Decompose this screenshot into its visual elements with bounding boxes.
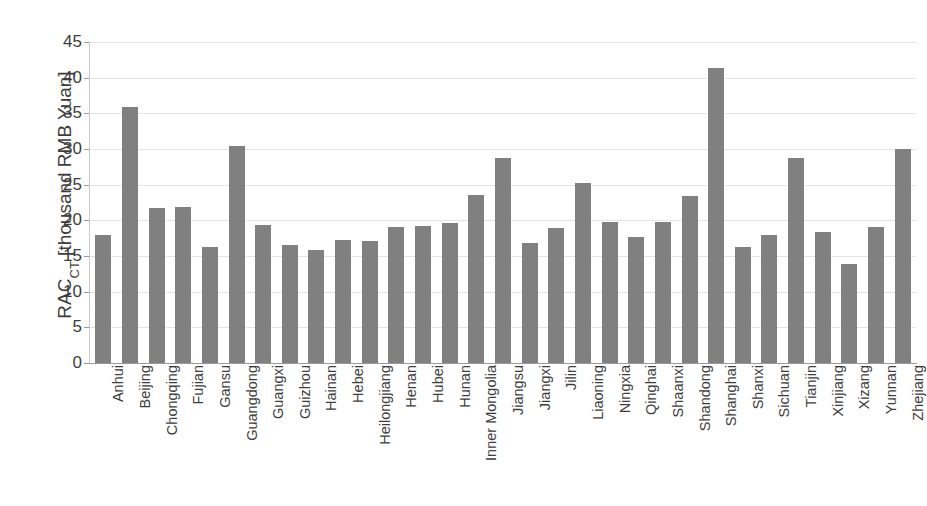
- bar: [895, 149, 911, 363]
- y-axis-tickmark: [84, 78, 89, 79]
- x-axis-tick-label: Xizang: [855, 365, 873, 505]
- x-axis-tick-label: Shanxi: [749, 365, 767, 505]
- y-axis-tickmark: [84, 42, 89, 43]
- x-axis-tick-label: Jilin: [562, 365, 580, 505]
- bar: [335, 240, 351, 363]
- x-axis-tick-label: Hebei: [349, 365, 367, 505]
- x-axis-tick-label: Ningxia: [616, 365, 634, 505]
- bar: [442, 223, 458, 363]
- y-axis-tick-label: 30: [48, 140, 82, 157]
- bar: [815, 232, 831, 363]
- y-axis-tick-label: 20: [48, 211, 82, 228]
- x-axis-tick-label: Fujian: [189, 365, 207, 505]
- x-axis-tick-label: Sichuan: [775, 365, 793, 505]
- bar: [788, 158, 804, 363]
- bar: [682, 196, 698, 363]
- y-axis-tick-label: 15: [48, 247, 82, 264]
- x-axis-tick-label: Heilongjiang: [376, 365, 394, 505]
- x-axis-tick-label: Liaoning: [589, 365, 607, 505]
- x-axis-tick-label: Zhejiang: [909, 365, 927, 505]
- bar: [628, 237, 644, 363]
- x-axis-tick-label: Tianjin: [802, 365, 820, 505]
- x-axis-tick-label: Jiangxi: [536, 365, 554, 505]
- bar: [548, 228, 564, 363]
- bar: [602, 222, 618, 363]
- y-axis-tickmark: [84, 149, 89, 150]
- x-axis-tick-label: Qinghai: [642, 365, 660, 505]
- y-axis-tickmark: [84, 292, 89, 293]
- y-axis-tick-label: 10: [48, 283, 82, 300]
- bar: [255, 225, 271, 363]
- y-axis-tickmark: [84, 220, 89, 221]
- bar: [575, 183, 591, 363]
- y-axis-tickmark: [84, 363, 89, 364]
- bar: [841, 264, 857, 363]
- bar: [229, 146, 245, 363]
- bar: [149, 208, 165, 364]
- x-axis-tick-label: Hainan: [322, 365, 340, 505]
- bar: [468, 195, 484, 363]
- x-axis-tick-label: Guangdong: [243, 365, 261, 505]
- x-axis-tick-label: Beijing: [136, 365, 154, 505]
- bar: [655, 222, 671, 363]
- x-axis-tick-label: Gansu: [216, 365, 234, 505]
- x-axis-tick-label: Chongqing: [163, 365, 181, 505]
- y-axis-tick-label: 0: [48, 354, 82, 371]
- x-axis-tick-label: Jiangsu: [509, 365, 527, 505]
- bar: [282, 245, 298, 363]
- bar: [175, 207, 191, 363]
- bar: [388, 227, 404, 363]
- x-axis-tick-label: Henan: [402, 365, 420, 505]
- y-axis-tick-label: 45: [48, 33, 82, 50]
- bar: [362, 241, 378, 363]
- y-axis-tick-labels: 051015202530354045: [40, 0, 82, 506]
- x-axis-tick-label: Shanghai: [722, 365, 740, 505]
- bar: [415, 226, 431, 363]
- y-axis-tickmark: [84, 185, 89, 186]
- x-axis-tick-labels: AnhuiBeijingChongqingFujianGansuGuangdon…: [90, 365, 916, 505]
- bar-series: [90, 42, 916, 363]
- x-axis-tick-label: Shandong: [696, 365, 714, 505]
- bar: [95, 235, 111, 363]
- y-axis-tick-label: 5: [48, 318, 82, 335]
- x-axis-tick-label: Inner Mongolia: [482, 365, 500, 505]
- bar: [122, 107, 138, 363]
- y-axis-tick-label: 40: [48, 69, 82, 86]
- bar: [495, 158, 511, 363]
- plot-area: [90, 42, 916, 363]
- x-axis-tick-label: Xinjiang: [829, 365, 847, 505]
- bar: [735, 247, 751, 363]
- y-axis-tickmark: [84, 327, 89, 328]
- bar: [522, 243, 538, 363]
- bar: [868, 227, 884, 363]
- bar: [308, 250, 324, 363]
- x-axis-tick-label: Anhui: [109, 365, 127, 505]
- y-axis-tick-label: 35: [48, 104, 82, 121]
- y-axis-tick-label: 25: [48, 176, 82, 193]
- y-axis-tickmark: [84, 113, 89, 114]
- x-axis-line: [89, 363, 917, 364]
- x-axis-tick-label: Shaanxi: [669, 365, 687, 505]
- bar: [761, 235, 777, 363]
- bar: [708, 68, 724, 363]
- y-axis-tickmark: [84, 256, 89, 257]
- bar: [202, 247, 218, 363]
- x-axis-tick-label: Guangxi: [269, 365, 287, 505]
- x-axis-tick-label: Hubei: [429, 365, 447, 505]
- x-axis-tick-label: Yunnan: [882, 365, 900, 505]
- x-axis-tick-label: Hunan: [456, 365, 474, 505]
- x-axis-tick-label: Guizhou: [296, 365, 314, 505]
